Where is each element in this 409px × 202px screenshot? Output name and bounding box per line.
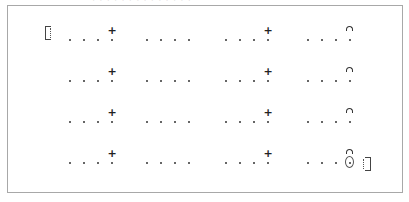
close-bracket-icon: [365, 157, 371, 171]
dot-icon: [335, 39, 337, 41]
dot-icon: [69, 39, 71, 41]
plus-accent-icon: +: [263, 107, 273, 118]
dot-icon: [97, 162, 99, 164]
dot-icon: [188, 121, 190, 123]
matrix-cell-r4-c1: +: [60, 148, 124, 168]
dot-icon: [146, 39, 148, 41]
dot-icon: [239, 80, 241, 82]
plus-accent-icon: +: [263, 25, 273, 36]
dot-icon: [335, 121, 337, 123]
dot-icon: [335, 80, 337, 82]
dot-icon: [188, 162, 190, 164]
dot-icon: [69, 162, 71, 164]
arc-accent-icon: [346, 149, 353, 154]
plus-accent-icon: +: [263, 148, 273, 159]
dot-icon: [321, 39, 323, 41]
matrix-cell-r3-c1: +: [60, 107, 124, 127]
dot-icon: [253, 121, 255, 123]
dot-icon: [160, 39, 162, 41]
dot-matrix: + +: [8, 6, 402, 192]
dot-icon: [111, 80, 113, 82]
dot-icon: [239, 121, 241, 123]
matrix-cell-r2-c1: +: [60, 66, 124, 86]
dot-icon: [321, 121, 323, 123]
matrix-cell-r3-c2: [141, 107, 205, 127]
dot-icon: [146, 121, 148, 123]
dot-icon: [188, 39, 190, 41]
dot-icon: [188, 80, 190, 82]
dot-icon: [267, 162, 269, 164]
dot-icon: [111, 121, 113, 123]
matrix-cell-r4-c4: [303, 148, 367, 168]
matrix-cell-r3-c4: [303, 107, 367, 127]
dot-icon: [225, 121, 227, 123]
arc-accent-icon: [346, 108, 353, 113]
matrix-cell-r2-c4: [303, 66, 367, 86]
dot-icon: [97, 121, 99, 123]
dot-icon: [307, 80, 309, 82]
matrix-cell-r1-c2: [141, 25, 205, 45]
dot-icon: [160, 80, 162, 82]
dot-icon: [225, 80, 227, 82]
dot-icon: [97, 39, 99, 41]
dot-icon: [111, 162, 113, 164]
dot-icon: [83, 80, 85, 82]
dot-icon: [146, 80, 148, 82]
dot-icon: [349, 39, 351, 41]
matrix-cell-r1-c3: +: [221, 25, 285, 45]
matrix-cell-r1-c1: +: [60, 25, 124, 45]
open-bracket-dots-icon: [50, 28, 52, 38]
dot-icon: [174, 121, 176, 123]
plus-accent-icon: +: [107, 25, 117, 36]
dot-icon: [267, 39, 269, 41]
arc-accent-icon: [346, 26, 353, 31]
circled-dot-icon: [345, 156, 354, 168]
notation-frame: + +: [7, 5, 403, 193]
dot-icon: [225, 162, 227, 164]
dot-icon: [239, 39, 241, 41]
dot-icon: [321, 162, 323, 164]
dot-icon: [97, 80, 99, 82]
dot-icon: [349, 121, 351, 123]
matrix-cell-r2-c3: +: [221, 66, 285, 86]
matrix-cell-r4-c3: +: [221, 148, 285, 168]
matrix-cell-r1-c4: [303, 25, 367, 45]
matrix-cell-r2-c2: [141, 66, 205, 86]
dot-icon: [335, 162, 337, 164]
top-caption: · · · · · · · · · · · · · ·: [92, 0, 191, 2]
dot-icon: [307, 39, 309, 41]
dot-icon: [146, 162, 148, 164]
dot-icon: [267, 80, 269, 82]
dot-icon: [174, 162, 176, 164]
dot-icon: [267, 121, 269, 123]
matrix-cell-r3-c3: +: [221, 107, 285, 127]
dot-icon: [239, 162, 241, 164]
dot-icon: [160, 162, 162, 164]
dot-icon: [160, 121, 162, 123]
dot-icon: [349, 80, 351, 82]
dot-icon: [111, 39, 113, 41]
dot-icon: [321, 80, 323, 82]
dot-icon: [253, 39, 255, 41]
dot-icon: [83, 121, 85, 123]
matrix-cell-r4-c2: [141, 148, 205, 168]
dot-icon: [69, 80, 71, 82]
dot-icon: [174, 39, 176, 41]
dot-icon: [225, 39, 227, 41]
page: · · · · · · · · · · · · · · +: [0, 0, 409, 202]
dot-icon: [83, 39, 85, 41]
plus-accent-icon: +: [263, 66, 273, 77]
dot-icon: [253, 80, 255, 82]
plus-accent-icon: +: [107, 66, 117, 77]
dot-icon: [307, 162, 309, 164]
plus-accent-icon: +: [107, 148, 117, 159]
dot-icon: [83, 162, 85, 164]
arc-accent-icon: [346, 67, 353, 72]
dot-icon: [307, 121, 309, 123]
dot-icon: [69, 121, 71, 123]
dot-icon: [174, 80, 176, 82]
plus-accent-icon: +: [107, 107, 117, 118]
dot-icon: [253, 162, 255, 164]
